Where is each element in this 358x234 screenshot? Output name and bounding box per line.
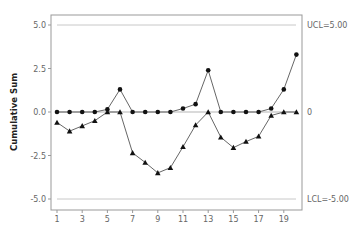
x-tick-label: 17 <box>254 215 264 224</box>
data-point-triangle <box>67 128 73 133</box>
y-axis-label: Cumulative Sum <box>9 73 19 151</box>
data-point-circle <box>156 110 161 115</box>
upper-cusum-series <box>55 52 299 114</box>
data-point-circle <box>193 102 198 107</box>
y-axis: 5.02.50.0-2.5-5.0 <box>30 21 51 204</box>
data-point-circle <box>130 110 135 115</box>
data-point-circle <box>93 110 98 115</box>
x-tick-label: 5 <box>105 215 110 224</box>
data-point-triangle <box>180 144 186 149</box>
x-tick-label: 19 <box>279 215 289 224</box>
x-tick-label: 1 <box>54 215 59 224</box>
data-point-circle <box>244 110 249 115</box>
ucl-label: UCL=5.00 <box>307 21 347 30</box>
data-point-circle <box>219 110 224 115</box>
cusum-chart: 5.02.50.0-2.5-5.0 135791113151719 UCL=5.… <box>0 0 358 234</box>
y-tick-label: -2.5 <box>30 152 46 161</box>
center-label: 0 <box>307 108 312 117</box>
data-point-triangle <box>243 139 249 144</box>
data-point-triangle <box>168 165 174 170</box>
x-tick-label: 3 <box>80 215 85 224</box>
data-point-triangle <box>218 134 224 139</box>
data-point-circle <box>181 106 186 111</box>
data-point-circle <box>118 87 123 92</box>
data-point-triangle <box>79 123 85 128</box>
x-tick-label: 11 <box>178 215 188 224</box>
y-tick-label: 2.5 <box>33 65 46 74</box>
y-tick-label: 0.0 <box>33 108 46 117</box>
x-tick-label: 7 <box>130 215 135 224</box>
limit-labels: UCL=5.000LCL=-5.00 <box>307 21 349 204</box>
data-point-triangle <box>54 120 60 125</box>
x-tick-label: 13 <box>203 215 213 224</box>
data-point-circle <box>282 87 287 92</box>
data-point-circle <box>80 110 85 115</box>
data-point-triangle <box>130 150 136 155</box>
x-tick-label: 15 <box>228 215 238 224</box>
x-axis: 135791113151719 <box>54 210 288 224</box>
lcl-label: LCL=-5.00 <box>307 195 349 204</box>
data-point-circle <box>55 110 60 115</box>
data-point-circle <box>67 110 72 115</box>
data-point-circle <box>231 110 236 115</box>
data-point-circle <box>143 110 148 115</box>
data-point-triangle <box>256 134 262 139</box>
data-point-circle <box>256 110 261 115</box>
data-point-circle <box>206 68 211 73</box>
data-point-circle <box>168 110 173 115</box>
lower-cusum-series <box>54 109 299 175</box>
y-tick-label: -5.0 <box>30 195 46 204</box>
data-point-circle <box>269 106 274 111</box>
y-tick-label: 5.0 <box>33 21 46 30</box>
data-point-triangle <box>92 118 98 123</box>
x-tick-label: 9 <box>155 215 160 224</box>
data-point-circle <box>294 52 299 57</box>
series-layer <box>54 52 299 175</box>
